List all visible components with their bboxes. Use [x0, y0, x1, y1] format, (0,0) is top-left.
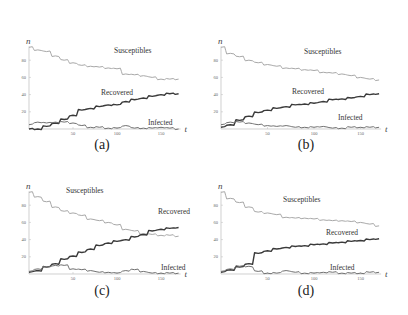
y-axis-label: n [218, 181, 223, 191]
y-tick-label: 40 [214, 237, 219, 242]
y-tick-label: 20 [214, 254, 219, 259]
y-tick-label: 80 [214, 58, 219, 63]
caption-c: (c) [0, 283, 204, 299]
label-susceptibles: Susceptibles [66, 186, 104, 195]
y-axis-label: n [218, 36, 223, 46]
label-recovered: Recovered [326, 228, 358, 237]
series-recovered [221, 239, 379, 273]
caption-a: (a) [0, 137, 204, 153]
x-tick-label: 50 [265, 276, 270, 281]
x-tick-label: 100 [114, 276, 122, 281]
x-tick-label: 100 [311, 131, 319, 136]
x-axis-label: t [385, 269, 388, 279]
y-tick-label: 80 [22, 203, 27, 208]
x-tick-label: 50 [71, 276, 76, 281]
label-infected: Infected [338, 113, 363, 122]
label-susceptibles: Susceptibles [283, 195, 321, 204]
x-tick-label: 50 [265, 131, 270, 136]
series-infected [29, 265, 179, 274]
y-tick-label: 60 [214, 75, 219, 80]
x-tick-label: 100 [114, 131, 122, 136]
x-tick-label: 150 [357, 276, 365, 281]
series-infected [221, 122, 379, 129]
label-infected: Infected [161, 263, 186, 272]
y-tick-label: 20 [214, 109, 219, 114]
y-tick-label: 80 [214, 203, 219, 208]
y-tick-label: 60 [22, 220, 27, 225]
x-tick-label: 100 [311, 276, 319, 281]
label-susceptibles: Susceptibles [114, 46, 152, 55]
panel-b: 5010015020406080ntSusceptiblesRecoveredI… [204, 0, 408, 158]
label-susceptibles: Susceptibles [304, 47, 342, 56]
y-tick-label: 80 [22, 58, 27, 63]
x-tick-label: 150 [158, 276, 166, 281]
label-recovered: Recovered [292, 87, 324, 96]
x-axis-label: t [185, 124, 188, 134]
y-tick-label: 40 [214, 92, 219, 97]
x-tick-label: 150 [158, 131, 166, 136]
label-infected: Infected [148, 118, 173, 127]
y-tick-label: 20 [22, 109, 27, 114]
chart-a: 5010015020406080ntSusceptiblesRecoveredI… [0, 0, 204, 158]
label-recovered: Recovered [158, 207, 190, 216]
y-tick-label: 40 [22, 237, 27, 242]
y-tick-label: 20 [22, 254, 27, 259]
series-susceptibles [29, 47, 179, 80]
caption-b: (b) [204, 137, 408, 153]
y-axis-label: n [26, 36, 31, 46]
chart-b: 5010015020406080ntSusceptiblesRecoveredI… [204, 0, 408, 158]
series-recovered [221, 94, 379, 128]
panel-c: 5010015020406080ntSusceptiblesRecoveredI… [0, 157, 204, 315]
label-infected: Infected [330, 263, 355, 272]
label-recovered: Recovered [101, 88, 133, 97]
panel-a: 5010015020406080ntSusceptiblesRecoveredI… [0, 0, 204, 158]
y-tick-label: 60 [22, 75, 27, 80]
series-susceptibles [221, 47, 379, 81]
x-axis-label: t [385, 124, 388, 134]
caption-d: (d) [204, 283, 408, 299]
y-tick-label: 60 [214, 220, 219, 225]
x-tick-label: 150 [357, 131, 365, 136]
y-axis-label: n [26, 181, 31, 191]
panel-d: 5010015020406080ntSusceptiblesRecoveredI… [204, 157, 408, 315]
x-tick-label: 50 [71, 131, 76, 136]
y-tick-label: 40 [22, 92, 27, 97]
series-infected [221, 266, 379, 274]
